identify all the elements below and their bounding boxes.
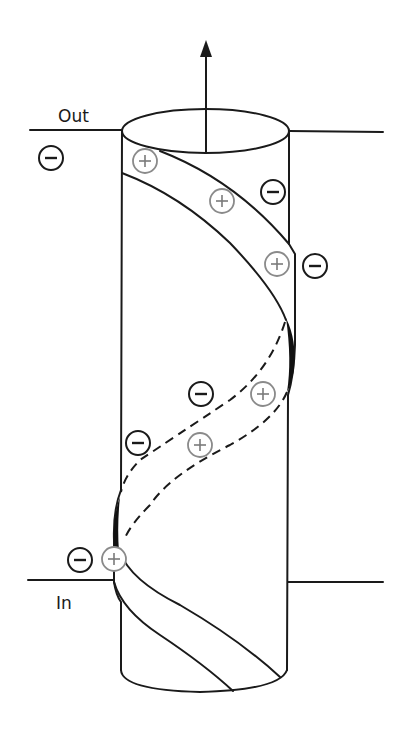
positive-charge-icon (265, 252, 289, 276)
negative-charge-icon (189, 382, 213, 406)
outer-membrane-line-right (289, 131, 383, 132)
helix-membrane-diagram: Out In (0, 0, 403, 732)
negative-charge-icon (39, 146, 63, 170)
helix-band-back-top-edge-dashed (121, 322, 285, 492)
negative-charge-icon (303, 254, 327, 278)
charge-symbols (39, 146, 327, 572)
negative-charge-icon (68, 548, 92, 572)
cylinder-left-edge (114, 131, 122, 670)
in-label: In (56, 593, 72, 613)
helix-band-back-bottom-edge-dashed (124, 392, 287, 540)
positive-charge-icon (251, 382, 275, 406)
helix-band-lower-bottom-edge (114, 582, 233, 691)
cylinder-right-edge (287, 131, 295, 670)
negative-charge-icon (261, 180, 285, 204)
out-label: Out (58, 106, 89, 126)
positive-charge-icon (188, 433, 212, 457)
axis-arrow-head-icon (200, 40, 212, 57)
negative-charge-icon (126, 431, 150, 455)
right-crescent-shade (286, 318, 295, 392)
positive-charge-icon (210, 189, 234, 213)
positive-charge-icon (102, 547, 126, 571)
helix-band-lower-top-edge (120, 552, 280, 677)
cylinder-bottom-curve (121, 670, 287, 692)
positive-charge-icon (133, 149, 157, 173)
